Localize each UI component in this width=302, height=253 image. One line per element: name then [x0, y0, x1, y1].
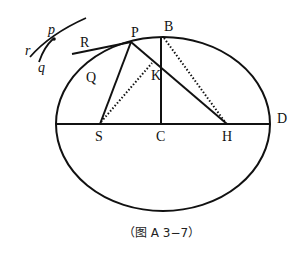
figure-caption: （图 A 3−7） — [123, 226, 200, 240]
inset-arc-p — [30, 18, 86, 57]
diagram-canvas: p r q R P B Q K S C H D （图 A 3−7） — [0, 0, 302, 253]
label-r: r — [25, 43, 31, 58]
label-p: p — [47, 22, 55, 37]
dotted-line-S — [101, 63, 152, 122]
label-P: P — [131, 25, 139, 40]
line-PH — [131, 42, 227, 124]
ellipse-diagram: p r q R P B Q K S C H D （图 A 3−7） — [0, 0, 302, 253]
label-C: C — [156, 129, 165, 144]
label-K: K — [151, 68, 161, 83]
label-H: H — [222, 129, 232, 144]
label-q: q — [38, 60, 45, 75]
label-Q: Q — [86, 70, 96, 85]
label-D: D — [277, 111, 287, 126]
label-S: S — [95, 129, 103, 144]
label-R: R — [80, 35, 90, 50]
point-p-marker — [52, 37, 56, 41]
dotted-line-BH — [164, 38, 225, 122]
line-SP — [100, 42, 131, 124]
label-B: B — [164, 19, 173, 34]
